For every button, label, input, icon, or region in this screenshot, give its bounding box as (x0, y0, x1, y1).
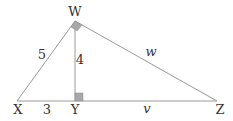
right-angle-marker-y (75, 93, 83, 101)
right-angle-marker-w (71, 21, 82, 31)
vertex-label-w: W (68, 4, 82, 19)
edge-wz (75, 21, 217, 101)
triangle-diagram: W X Y Z 5 4 3 v w (0, 0, 233, 121)
edge-label-wy: 4 (76, 52, 84, 67)
vertex-label-x: X (13, 102, 23, 117)
vertex-label-z: Z (215, 102, 224, 117)
edge-label-xy: 3 (43, 102, 51, 117)
edge-label-wz: w (145, 44, 156, 59)
edge-label-wx: 5 (38, 47, 46, 62)
vertex-label-y: Y (70, 102, 80, 117)
edge-label-yz: v (143, 101, 151, 116)
